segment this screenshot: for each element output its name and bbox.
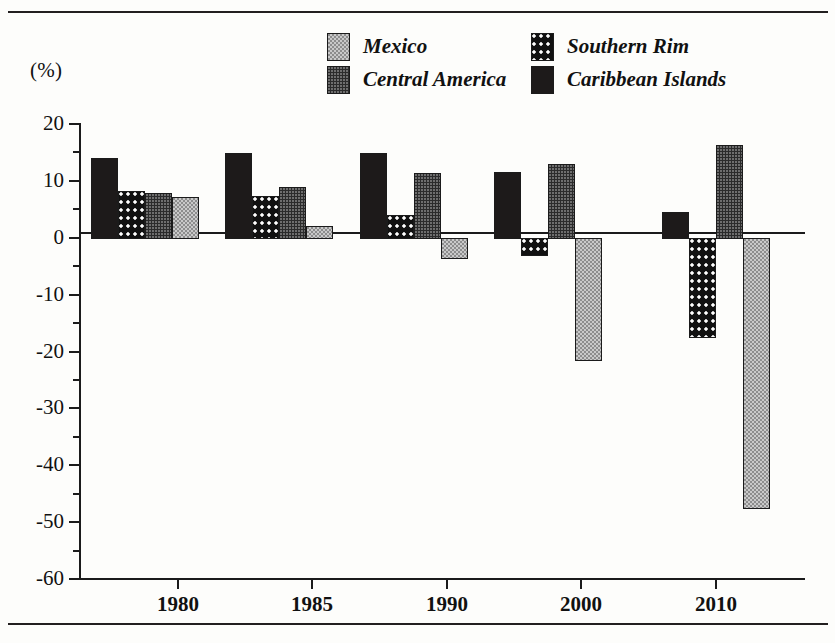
x-tick — [177, 578, 179, 589]
bar — [689, 238, 716, 339]
y-tick-major — [69, 578, 81, 580]
y-tick-minor — [73, 379, 81, 381]
y-tick-major — [69, 351, 81, 353]
bar — [360, 153, 387, 239]
bar — [225, 153, 252, 239]
y-axis-tick-label: 20 — [0, 113, 64, 134]
bar — [145, 193, 172, 238]
bar — [279, 187, 306, 239]
y-tick-major — [69, 294, 81, 296]
y-tick-minor — [73, 208, 81, 210]
bar — [306, 226, 333, 238]
y-tick-major — [69, 521, 81, 523]
plot-area: 20100-10-20-30-40-50-60 1980198519902000… — [0, 0, 835, 643]
bar — [118, 191, 145, 239]
y-tick-major — [69, 237, 81, 239]
y-axis-tick-label: -20 — [0, 341, 64, 362]
x-axis-tick-label: 1990 — [407, 592, 487, 617]
bar — [494, 172, 521, 238]
y-tick-minor — [73, 151, 81, 153]
x-axis-line — [79, 578, 805, 580]
y-axis-tick-label: -10 — [0, 284, 64, 305]
y-axis-tick-label: -50 — [0, 511, 64, 532]
bar — [414, 173, 441, 238]
x-axis-tick-label: 1980 — [138, 592, 218, 617]
x-tick — [446, 578, 448, 589]
y-tick-major — [69, 180, 81, 182]
y-axis-tick-label: 10 — [0, 170, 64, 191]
y-tick-minor — [73, 436, 81, 438]
y-axis-tick-label: -30 — [0, 397, 64, 418]
y-tick-minor — [73, 493, 81, 495]
y-axis-tick-label: -60 — [0, 568, 64, 589]
bar — [662, 212, 689, 239]
x-tick — [715, 578, 717, 589]
x-tick — [311, 578, 313, 589]
y-axis-tick-label: 0 — [0, 227, 64, 248]
x-axis-tick-label: 1985 — [272, 592, 352, 617]
bar — [172, 197, 199, 239]
x-tick — [580, 578, 582, 589]
y-tick-minor — [73, 322, 81, 324]
bar — [387, 215, 414, 239]
bar — [548, 164, 575, 239]
y-tick-minor — [73, 265, 81, 267]
bar — [521, 238, 548, 256]
y-axis-tick-label: -40 — [0, 454, 64, 475]
figure: (%) Mexico Southern Rim Central America … — [0, 0, 835, 643]
bar — [743, 238, 770, 509]
bar — [441, 238, 468, 259]
y-tick-major — [69, 464, 81, 466]
bar — [716, 145, 743, 239]
x-axis-tick-label: 2010 — [676, 592, 756, 617]
x-axis-tick-label: 2000 — [541, 592, 621, 617]
y-tick-minor — [73, 550, 81, 552]
y-tick-major — [69, 123, 81, 125]
bar — [575, 238, 602, 361]
bar — [252, 196, 279, 239]
y-tick-major — [69, 407, 81, 409]
bar — [91, 158, 118, 239]
